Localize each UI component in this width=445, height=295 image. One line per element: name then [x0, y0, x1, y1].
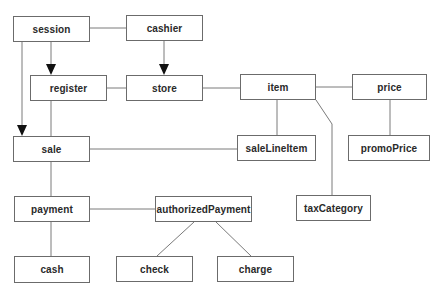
node-label: charge — [239, 264, 272, 275]
edge-item-taxCategory — [316, 100, 332, 195]
edge-session-sale — [17, 42, 27, 136]
edge-authorizedPayment-charge — [216, 222, 251, 256]
node-label: saleLineItem — [246, 143, 308, 154]
node-label: taxCategory — [304, 203, 363, 214]
connector-line — [216, 222, 251, 256]
node-label: authorizedPayment — [157, 204, 251, 215]
node-label: cashier — [147, 23, 183, 34]
arrowhead-icon — [159, 64, 169, 75]
node-sale-line-item: saleLineItem — [237, 135, 316, 161]
node-label: register — [50, 83, 88, 94]
node-item: item — [240, 74, 316, 100]
node-promo-price: promoPrice — [348, 135, 430, 161]
node-label: payment — [31, 204, 73, 215]
edge-authorizedPayment-check — [157, 222, 194, 256]
diagram-canvas: session cashier register store item pric… — [0, 0, 445, 295]
arrowhead-icon — [46, 64, 56, 75]
node-payment: payment — [14, 196, 90, 222]
node-price: price — [352, 74, 427, 100]
node-label: promoPrice — [361, 143, 418, 154]
edge-session-register — [46, 42, 56, 75]
node-label: store — [152, 83, 177, 94]
node-session: session — [13, 16, 90, 42]
node-check: check — [116, 256, 193, 282]
node-label: price — [377, 82, 401, 93]
node-cash: cash — [14, 256, 90, 283]
connector-line — [316, 100, 332, 195]
node-cashier: cashier — [126, 15, 203, 41]
node-tax-category: taxCategory — [296, 195, 371, 221]
arrowhead-icon — [17, 125, 27, 136]
node-label: sale — [42, 144, 62, 155]
node-label: session — [33, 24, 71, 35]
edge-cashier-store — [159, 41, 169, 75]
node-authorized-payment: authorizedPayment — [155, 196, 252, 222]
node-label: item — [268, 82, 289, 93]
node-sale: sale — [13, 136, 90, 162]
node-store: store — [126, 75, 203, 101]
node-register: register — [30, 75, 107, 101]
node-label: cash — [40, 264, 63, 275]
connector-line — [157, 222, 194, 256]
node-label: check — [140, 264, 169, 275]
node-charge: charge — [217, 256, 294, 282]
